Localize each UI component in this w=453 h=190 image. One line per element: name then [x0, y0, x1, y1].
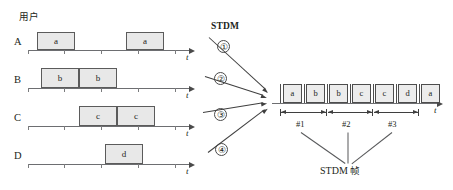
data-block-label: c — [80, 111, 116, 121]
stdm-frame-caption-cjk: 帧 — [350, 165, 360, 176]
output-time-axis — [272, 103, 438, 104]
frame-separator — [419, 84, 420, 103]
frame-span-arrow-left-1 — [281, 110, 286, 114]
axis-arrowhead-d — [189, 162, 195, 168]
axis-tick — [28, 50, 29, 54]
mux-input-arrowhead-4 — [262, 107, 269, 114]
frame-cell-3: b — [329, 84, 348, 103]
stdm-frame-caption: STDM 帧 — [320, 166, 360, 176]
frame-separator — [304, 84, 305, 103]
data-block-d1: d — [105, 144, 143, 164]
axis-tick — [64, 50, 65, 54]
data-block-b1: b — [41, 68, 79, 88]
frame-cell-4: c — [352, 84, 371, 103]
mux-input-arrowhead-1 — [262, 88, 269, 95]
user-row-label-d: D — [14, 151, 22, 162]
axis-tick — [138, 164, 139, 168]
time-axis-label-d: t — [186, 167, 189, 176]
time-axis-b — [28, 88, 190, 89]
axis-tick — [175, 50, 176, 54]
frame-cell-6: d — [398, 84, 417, 103]
axis-tick — [101, 88, 102, 92]
user-row-label-b: B — [14, 75, 21, 86]
time-axis-label-a: t — [186, 53, 189, 62]
frame-label-2: #2 — [342, 120, 351, 129]
axis-tick — [175, 126, 176, 130]
mux-input-ray-3 — [203, 102, 263, 113]
frame-separator — [350, 84, 351, 103]
axis-tick — [138, 50, 139, 54]
time-axis-c — [28, 126, 190, 127]
axis-tick — [28, 88, 29, 92]
frame-span-line-3 — [374, 112, 418, 113]
data-block-c2: c — [117, 106, 155, 126]
frame-span-line-1 — [281, 112, 326, 113]
caption-leader-1 — [301, 132, 346, 164]
axis-tick — [175, 164, 176, 168]
output-time-axis-label: t — [434, 106, 437, 115]
axis-tick — [138, 126, 139, 130]
data-block-label: d — [106, 149, 142, 159]
data-block-b2: b — [79, 68, 117, 88]
caption-leader-2 — [348, 133, 349, 164]
time-axis-a — [28, 50, 190, 51]
axis-arrowhead-a — [189, 48, 195, 54]
frame-label-3: #3 — [388, 120, 397, 129]
frame-cell-1: a — [283, 84, 302, 103]
data-block-c1: c — [79, 106, 117, 126]
stdm-diagram: 用户 A t a a B t b b — [0, 0, 453, 190]
caption-leader-3 — [352, 132, 393, 164]
frame-span-tick — [418, 109, 419, 116]
frame-separator — [280, 84, 281, 103]
frame-cell-7: a — [421, 84, 440, 103]
frame-separator — [373, 84, 374, 103]
time-axis-d — [28, 164, 190, 165]
axis-tick — [28, 126, 29, 130]
frame-span-line-2 — [328, 112, 372, 113]
users-heading: 用户 — [19, 12, 39, 22]
data-block-a2: a — [126, 32, 164, 50]
axis-tick — [28, 164, 29, 168]
axis-tick — [64, 164, 65, 168]
data-block-label: a — [127, 36, 163, 46]
axis-tick — [64, 126, 65, 130]
axis-arrowhead-b — [189, 86, 195, 92]
data-block-a1: a — [37, 32, 75, 50]
mux-input-arrowhead-3 — [261, 102, 268, 107]
user-row-label-a: A — [14, 37, 22, 48]
axis-tick — [138, 88, 139, 92]
axis-arrowhead-c — [189, 124, 195, 130]
frame-cell-2: b — [306, 84, 325, 103]
data-block-label: b — [42, 73, 78, 83]
axis-tick — [101, 50, 102, 54]
frame-span-arrow-left-2 — [328, 110, 333, 114]
axis-tick — [64, 88, 65, 92]
mux-input-arrowhead-2 — [261, 94, 268, 100]
data-block-label: c — [118, 111, 154, 121]
data-block-label: b — [80, 73, 116, 83]
frame-cell-5: c — [375, 84, 394, 103]
axis-tick — [175, 88, 176, 92]
frame-span-tick — [326, 109, 327, 116]
frame-span-arrow-left-3 — [374, 110, 379, 114]
user-row-label-c: C — [14, 113, 21, 124]
frame-span-tick — [372, 109, 373, 116]
stdm-frame-caption-prefix: STDM — [320, 165, 350, 176]
axis-tick — [101, 126, 102, 130]
frame-separator — [396, 84, 397, 103]
data-block-label: a — [38, 36, 74, 46]
frame-separator — [327, 84, 328, 103]
frame-label-1: #1 — [296, 120, 305, 129]
time-axis-label-c: t — [186, 129, 189, 138]
axis-tick — [101, 164, 102, 168]
time-axis-label-b: t — [186, 91, 189, 100]
stdm-title: STDM — [211, 22, 239, 32]
